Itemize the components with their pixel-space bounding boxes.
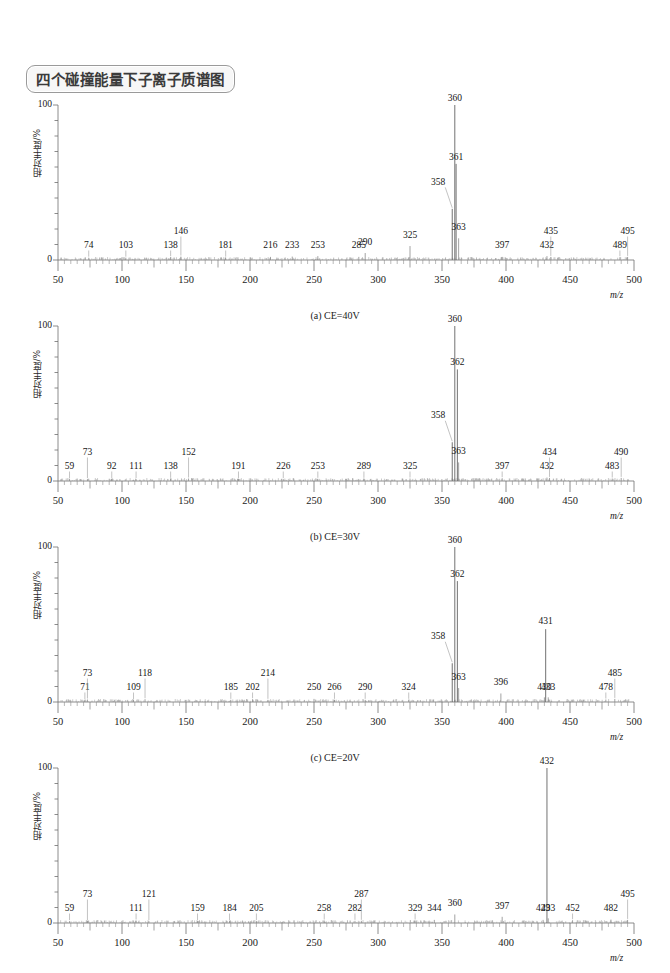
- peak-label: 489: [613, 240, 628, 250]
- peak-label: 266: [327, 682, 342, 692]
- peak-label: 205: [249, 903, 264, 913]
- peak-label: 152: [181, 447, 196, 457]
- peak-label: 74: [84, 240, 94, 250]
- spectrum-plot-b: 5973921111381521912262532893253583603623…: [0, 316, 670, 531]
- peak-label: 325: [403, 461, 418, 471]
- peak-label: 362: [450, 569, 465, 579]
- peak-label: 111: [129, 903, 143, 913]
- peak-label: 111: [129, 461, 143, 471]
- peak-label: 250: [307, 682, 322, 692]
- peak-label: 258: [317, 903, 332, 913]
- peak-label: 358: [431, 631, 446, 641]
- peak-label: 289: [357, 461, 372, 471]
- peak-label: 184: [222, 903, 237, 913]
- peak-label: 482: [604, 903, 619, 913]
- peak-label: 191: [231, 461, 246, 471]
- peak-label: 485: [608, 668, 623, 678]
- peak-label: 397: [495, 461, 510, 471]
- peak-label: 253: [311, 461, 326, 471]
- peak-label: 233: [285, 240, 300, 250]
- peak-label: 495: [620, 226, 635, 236]
- peak-label: 282: [348, 903, 363, 913]
- peak-label: 478: [599, 682, 614, 692]
- peak-label: 362: [450, 357, 465, 367]
- peak-label: 432: [540, 240, 555, 250]
- peak-label: 432: [540, 756, 555, 766]
- peak-label: 202: [245, 682, 260, 692]
- peak-label: 214: [261, 668, 276, 678]
- peak-label: 363: [452, 446, 467, 456]
- peak-label: 358: [431, 177, 446, 187]
- spectrum-plot-a: 7410313814618121623325328529032535836036…: [0, 95, 670, 310]
- peak-label: 363: [452, 222, 467, 232]
- peak-label: 325: [403, 230, 418, 240]
- peak-label: 452: [565, 903, 580, 913]
- peak-label: 432: [540, 461, 555, 471]
- peak-label: 216: [263, 240, 278, 250]
- peak-label: 73: [83, 889, 93, 899]
- peak-label: 73: [83, 447, 93, 457]
- peak-label: 483: [605, 461, 620, 471]
- peak-label: 397: [495, 240, 510, 250]
- peak-label: 433: [541, 903, 556, 913]
- peak-label: 431: [539, 616, 554, 626]
- peak-label: 59: [65, 903, 75, 913]
- peak-label: 138: [164, 240, 179, 250]
- peak-label: 344: [427, 903, 442, 913]
- peak-label: 329: [408, 903, 423, 913]
- peak-label: 71: [80, 682, 90, 692]
- peak-label: 290: [358, 237, 373, 247]
- peak-label: 253: [311, 240, 326, 250]
- peak-label: 435: [544, 226, 559, 236]
- peak-label: 360: [448, 314, 463, 324]
- peak-label: 73: [83, 668, 93, 678]
- peak-label: 396: [494, 677, 509, 687]
- peak-label: 92: [107, 461, 117, 471]
- peak-label: 360: [448, 898, 463, 908]
- peak-label: 361: [449, 152, 464, 162]
- peak-label: 109: [126, 682, 141, 692]
- peak-label: 59: [65, 461, 75, 471]
- peak-label: 146: [174, 226, 189, 236]
- peak-label: 103: [119, 240, 134, 250]
- figure-title: 四个碰撞能量下子离子质谱图: [26, 65, 235, 93]
- peak-label: 181: [219, 240, 234, 250]
- peak-label: 118: [138, 668, 152, 678]
- peak-label: 121: [142, 889, 157, 899]
- spectrum-plot-c: 7173109118185202214250266290324358360362…: [0, 537, 670, 752]
- peak-label: 226: [276, 461, 291, 471]
- peak-label: 159: [190, 903, 205, 913]
- peak-label: 397: [495, 901, 510, 911]
- peak-label: 185: [224, 682, 239, 692]
- peak-label: 363: [452, 672, 467, 682]
- peak-label: 324: [402, 682, 417, 692]
- spectrum-plot-d: 5973111121159184205258282287329344360397…: [0, 758, 670, 973]
- peak-label: 358: [431, 410, 446, 420]
- peak-label: 490: [614, 447, 629, 457]
- peak-label: 495: [620, 889, 635, 899]
- peak-label: 290: [358, 682, 373, 692]
- peak-label: 138: [164, 461, 179, 471]
- peak-label: 287: [354, 889, 369, 899]
- peak-label: 433: [541, 682, 556, 692]
- peak-label: 360: [448, 535, 463, 545]
- peak-label: 434: [542, 447, 557, 457]
- peak-label: 360: [448, 93, 463, 103]
